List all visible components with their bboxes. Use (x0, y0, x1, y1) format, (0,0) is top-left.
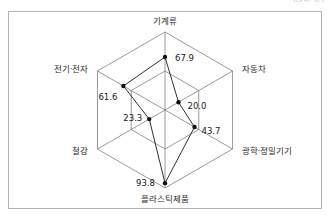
radar-axis-label-1: 자동차 (242, 64, 266, 74)
radar-axis-label-2: 광학·정밀기기 (242, 146, 293, 156)
radar-point-5 (121, 84, 125, 88)
radar-value-label-0: 67.9 (175, 53, 194, 63)
radar-point-3 (163, 181, 167, 185)
radar-value-label-5: 61.6 (98, 92, 117, 102)
radar-axis-label-4: 철강 (72, 146, 88, 156)
radar-value-labels: 67.920.043.793.823.361.6 (98, 53, 220, 188)
radar-value-label-3: 93.8 (136, 178, 155, 188)
radar-chart-figure: (단위: %) 67.920.043.793.823.361.6 기계류자동차광… (0, 0, 332, 216)
radar-point-0 (163, 55, 167, 59)
chart-frame: 67.920.043.793.823.361.6 기계류자동차광학·정밀기기플라… (8, 11, 322, 209)
radar-value-label-2: 43.7 (202, 126, 221, 136)
radar-value-label-1: 20.0 (188, 101, 207, 111)
radar-point-4 (147, 117, 151, 121)
radar-point-1 (176, 100, 180, 104)
radar-axis-label-0: 기계류 (153, 16, 177, 26)
radar-plot: 67.920.043.793.823.361.6 기계류자동차광학·정밀기기플라… (9, 12, 321, 208)
radar-axis-labels: 기계류자동차광학·정밀기기플라스틱제품철강전기·전자 (54, 16, 293, 204)
radar-point-2 (192, 125, 196, 129)
radar-value-label-4: 23.3 (123, 113, 142, 123)
radar-axis-label-5: 전기·전자 (54, 64, 89, 74)
unit-note: (단위: %) (293, 0, 324, 2)
radar-axis-label-3: 플라스틱제품 (141, 194, 189, 204)
